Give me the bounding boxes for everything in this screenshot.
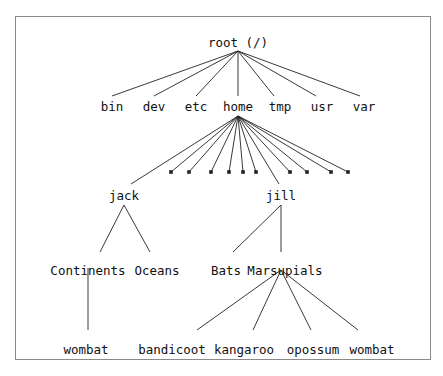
- tree-edge: [238, 116, 307, 172]
- stub-node-marker: [346, 170, 350, 174]
- tree-edge: [238, 116, 331, 172]
- node-etc: etc: [185, 99, 208, 114]
- tree-edge: [253, 270, 281, 330]
- stub-node-marker: [305, 170, 309, 174]
- node-jill: jill: [266, 188, 296, 203]
- node-usr: usr: [311, 99, 334, 114]
- node-bats: Bats: [211, 263, 241, 278]
- tree-edge: [197, 270, 281, 330]
- tree-nodes: root (/)bindevetchometmpusrvarjackjillCo…: [50, 35, 394, 357]
- node-wombat2: wombat: [349, 342, 394, 357]
- tree-edge: [238, 51, 316, 96]
- stub-node-marker: [227, 170, 231, 174]
- node-tmp: tmp: [269, 99, 292, 114]
- tree-edge: [233, 205, 281, 252]
- node-home: home: [223, 99, 253, 114]
- stub-node-marker: [209, 170, 213, 174]
- node-bin: bin: [101, 99, 124, 114]
- node-jack: jack: [109, 188, 140, 203]
- stub-node-marker: [241, 170, 245, 174]
- unnamed-directory-stubs: [169, 170, 350, 174]
- tree-edge: [100, 205, 124, 252]
- node-bandicoot: bandicoot: [138, 342, 206, 357]
- node-wombat1: wombat: [63, 342, 108, 357]
- node-dev: dev: [143, 99, 166, 114]
- tree-edge: [171, 116, 238, 172]
- node-kangaroo: kangaroo: [214, 342, 274, 357]
- tree-edge: [124, 205, 150, 252]
- tree-edge: [281, 270, 311, 330]
- node-root: root (/): [208, 35, 268, 50]
- stub-node-marker: [187, 170, 191, 174]
- tree-edge: [154, 51, 238, 96]
- directory-tree: root (/)bindevetchometmpusrvarjackjillCo…: [0, 0, 443, 376]
- node-opossum: opossum: [287, 342, 340, 357]
- stub-node-marker: [329, 170, 333, 174]
- node-continents: Continents: [50, 263, 125, 278]
- tree-edge: [112, 51, 238, 96]
- stub-node-marker: [169, 170, 173, 174]
- stub-node-marker: [288, 170, 292, 174]
- node-oceans: Oceans: [134, 263, 179, 278]
- tree-edge: [238, 116, 290, 172]
- tree-edge: [281, 270, 358, 330]
- node-var: var: [353, 99, 376, 114]
- tree-edge: [196, 51, 238, 96]
- node-marsupials: Marsupials: [247, 263, 322, 278]
- stub-node-marker: [254, 170, 258, 174]
